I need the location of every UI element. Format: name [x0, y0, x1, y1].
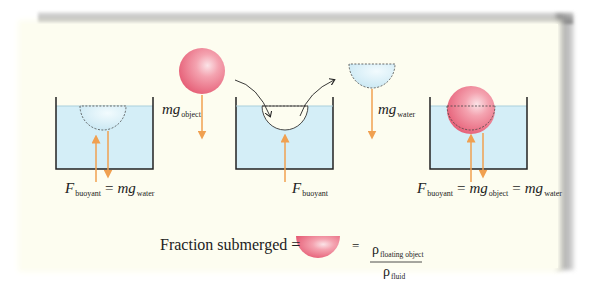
floating-sphere	[447, 86, 495, 134]
submerged-hemisphere-icon	[296, 236, 340, 258]
numerator: ρfloating object	[372, 242, 424, 259]
denominator: ρfluid	[383, 264, 405, 281]
sphere-object	[179, 48, 225, 94]
displaced-water	[349, 64, 395, 135]
fraction-submerged-label: Fraction submerged =	[160, 236, 300, 254]
water-blob	[349, 64, 395, 88]
tank1-force-label: Fbuoyant=mgwater	[65, 180, 155, 198]
tank3-force-label: Fbuoyant=mgobject=mgwater	[417, 180, 562, 198]
tank-2	[235, 80, 334, 182]
falling-object	[179, 48, 225, 135]
water-weight-label: mgwater	[378, 101, 415, 119]
formula-equals: =	[352, 238, 359, 254]
tank2-force-label: Fbuoyant	[292, 180, 328, 198]
object-weight-label: mgobject	[162, 101, 201, 119]
tank-1	[56, 97, 153, 182]
tank-3	[430, 86, 527, 182]
